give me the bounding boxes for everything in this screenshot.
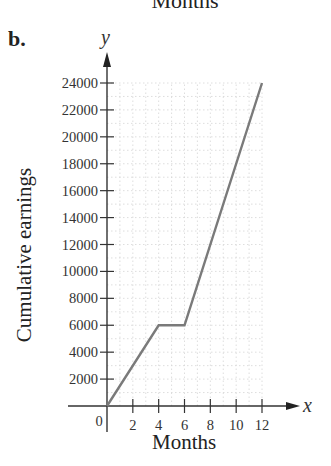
x-tick-label: 4 bbox=[155, 417, 163, 433]
y-tick-label: 6000 bbox=[69, 317, 98, 333]
y-axis-variable: y bbox=[99, 26, 110, 49]
origin-label: 0 bbox=[95, 413, 102, 429]
x-tick-label: 10 bbox=[229, 417, 244, 433]
y-tick-label: 2000 bbox=[69, 371, 98, 387]
y-tick-label: 22000 bbox=[62, 102, 98, 118]
y-axis-arrow-icon bbox=[103, 52, 111, 67]
y-tick-label: 10000 bbox=[62, 263, 98, 279]
chart-plot: xy24681012020004000600080001000012000140… bbox=[0, 0, 331, 466]
x-tick-label: 8 bbox=[207, 417, 214, 433]
y-tick-label: 16000 bbox=[62, 183, 98, 199]
y-tick-label: 4000 bbox=[69, 344, 98, 360]
y-tick-label: 14000 bbox=[62, 210, 98, 226]
x-axis-arrow-icon bbox=[286, 402, 300, 410]
y-tick-label: 18000 bbox=[62, 156, 98, 172]
y-tick-label: 20000 bbox=[62, 129, 98, 145]
x-tick-label: 6 bbox=[181, 417, 188, 433]
y-tick-label: 12000 bbox=[62, 237, 98, 253]
x-axis-variable: x bbox=[302, 394, 312, 416]
x-tick-label: 2 bbox=[129, 417, 136, 433]
x-tick-label: 12 bbox=[255, 417, 270, 433]
y-tick-label: 8000 bbox=[69, 290, 98, 306]
y-tick-label: 24000 bbox=[62, 75, 98, 91]
